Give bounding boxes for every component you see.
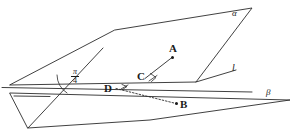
label-point-d: D xyxy=(104,83,112,94)
edge-extension-tick xyxy=(14,96,50,97)
dihedral-angle-value: π 4 xyxy=(71,68,79,86)
plane-alpha-outline xyxy=(10,8,252,85)
line-l xyxy=(196,70,236,82)
label-plane-beta: β xyxy=(266,88,270,97)
label-line-l: l xyxy=(232,63,235,73)
label-point-c: C xyxy=(137,71,145,82)
geometry-canvas xyxy=(0,0,301,137)
angle-numerator: π xyxy=(71,68,79,76)
point-b-marker xyxy=(175,102,178,105)
label-point-b: B xyxy=(180,99,187,110)
segment-c-to-a xyxy=(145,58,172,79)
point-a-marker xyxy=(171,56,174,59)
geometry-figure: α β l A B C D π 4 xyxy=(0,0,301,137)
label-plane-alpha: α xyxy=(232,9,237,18)
plane-beta-outline xyxy=(10,93,290,128)
label-point-a: A xyxy=(169,43,177,54)
right-angle-mark-c xyxy=(151,74,157,82)
angle-denominator: 4 xyxy=(71,77,79,85)
